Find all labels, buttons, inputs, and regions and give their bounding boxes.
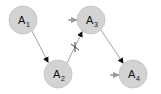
svg-text:A: A (53, 68, 61, 80)
svg-text:A: A (18, 14, 26, 26)
node-a3: A 3 (77, 6, 105, 34)
node-a2: A 2 (44, 60, 72, 88)
svg-text:A: A (86, 14, 94, 26)
blocked-x-icon (71, 42, 79, 52)
node-a4: A 4 (119, 60, 147, 88)
svg-text:A: A (128, 68, 136, 80)
svg-text:4: 4 (136, 75, 140, 82)
node-a1: A 1 (9, 6, 37, 34)
svg-text:1: 1 (26, 21, 30, 28)
svg-text:3: 3 (94, 21, 98, 28)
dependency-diagram: A 1 A 3 A 2 A 4 (0, 0, 161, 94)
svg-text:2: 2 (61, 75, 65, 82)
edge-a3-a4 (101, 30, 123, 63)
edge-a1-a2 (32, 31, 48, 62)
